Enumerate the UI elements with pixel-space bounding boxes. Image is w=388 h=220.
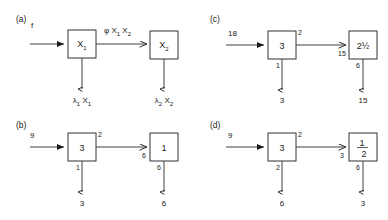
- panel-b-output1-label: 3: [80, 199, 85, 208]
- panel-a: (a) f X1 φ X1 X2 X2 λ1 X1 λ2 X2: [16, 14, 178, 107]
- panel-c-box1-label: 3: [279, 41, 284, 51]
- panel-d-output1-label: 6: [280, 199, 285, 208]
- panel-b-label: (b): [16, 120, 27, 130]
- panel-a-output2-label: λ2 X2: [155, 96, 174, 107]
- panel-d-label: (d): [210, 120, 221, 130]
- panel-d-box2-numerator: 1: [359, 138, 364, 148]
- four-panel-flow-diagram: (a) f X1 φ X1 X2 X2 λ1 X1 λ2 X2 (c) 18 3…: [0, 0, 388, 220]
- panel-b: (b) 9 3 2 1 6 1 6 3 6: [16, 120, 178, 208]
- panel-a-input-label: f: [31, 21, 34, 30]
- panel-c-box2-bottom-left-label: 6: [356, 62, 360, 69]
- panel-c-box1-top-right-label: 2: [298, 29, 302, 36]
- panel-b-arrow2-left-label: 6: [142, 152, 146, 159]
- panel-a-link-label: φ X1 X2: [104, 26, 132, 37]
- panel-b-box1-bottom-left-label: 1: [76, 164, 80, 171]
- panel-a-output1-label: λ1 X1: [73, 96, 92, 107]
- panel-d-input-label: 9: [228, 131, 233, 140]
- panel-d-box1-bottom-left-label: 2: [276, 164, 280, 171]
- panel-c: (c) 18 3 2 1 15 2½ 6 3 15: [210, 14, 377, 105]
- panel-c-output1-label: 3: [280, 96, 285, 105]
- panel-b-output2-label: 6: [162, 199, 167, 208]
- panel-c-input-label: 18: [228, 29, 237, 38]
- panel-a-label: (a): [16, 14, 27, 24]
- panel-b-box1-label: 3: [79, 143, 84, 153]
- panel-d-box2-denominator: 2: [361, 149, 366, 159]
- panel-b-box2-label: 1: [161, 143, 166, 153]
- panel-b-box1-top-right-label: 2: [98, 131, 102, 138]
- panel-c-box2-label: 2½: [357, 41, 370, 51]
- panel-b-input-label: 9: [30, 131, 35, 140]
- panel-d-arrow2-left-label: 3: [340, 152, 344, 159]
- panel-d: (d) 9 3 2 2 3 1 2 6 6 3: [210, 120, 377, 208]
- panel-d-box1-label: 3: [279, 143, 284, 153]
- panel-d-box2-bottom-left-label: 6: [356, 164, 360, 171]
- panel-d-box1-top-right-label: 2: [298, 131, 302, 138]
- figure-canvas: (a) f X1 φ X1 X2 X2 λ1 X1 λ2 X2 (c) 18 3…: [0, 0, 388, 220]
- panel-c-label: (c): [210, 14, 220, 24]
- panel-d-output2-label: 3: [361, 199, 366, 208]
- panel-c-box1-bottom-left-label: 1: [276, 62, 280, 69]
- panel-c-arrow2-left-label: 15: [338, 50, 346, 57]
- panel-c-output2-label: 15: [359, 96, 368, 105]
- panel-b-box2-bottom-left-label: 6: [157, 164, 161, 171]
